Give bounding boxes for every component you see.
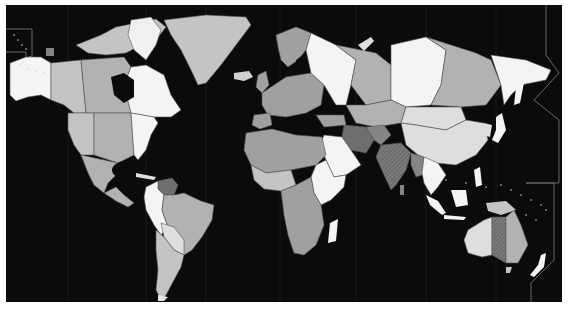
region-iceland: [234, 71, 253, 81]
region-hawaii-marker: [46, 48, 54, 56]
region-central-australia: [492, 217, 506, 263]
region-usa-east: [131, 113, 158, 160]
region-kazakhstan: [346, 100, 406, 127]
region-iberia: [252, 113, 272, 129]
region-india: [376, 143, 411, 190]
region-usa-west: [68, 113, 94, 155]
region-korea: [484, 123, 492, 137]
region-indonesia-sumatra: [426, 195, 446, 215]
region-usa-central: [94, 113, 134, 163]
region-sri-lanka: [400, 185, 404, 195]
region-tasmania: [506, 267, 512, 273]
region-borneo: [451, 190, 468, 207]
south-america: [144, 178, 214, 301]
region-canada-west: [51, 60, 86, 113]
region-philippines: [474, 167, 482, 187]
region-baffin: [128, 17, 161, 60]
region-alaska: [10, 57, 51, 101]
region-western-australia: [464, 217, 492, 257]
region-central-america: [104, 187, 134, 207]
region-eastern-australia: [506, 210, 528, 263]
region-japan: [492, 113, 506, 143]
region-novaya-zemlya: [358, 37, 374, 51]
map-canvas: [6, 5, 562, 302]
russia: [306, 33, 551, 107]
region-new-zealand: [530, 253, 546, 277]
world-map: [6, 5, 562, 302]
region-indonesia-java: [444, 215, 466, 220]
region-madagascar: [328, 219, 338, 243]
region-western-europe: [262, 73, 324, 117]
north-america: [10, 17, 181, 207]
gulf-of-mexico: [112, 161, 140, 179]
